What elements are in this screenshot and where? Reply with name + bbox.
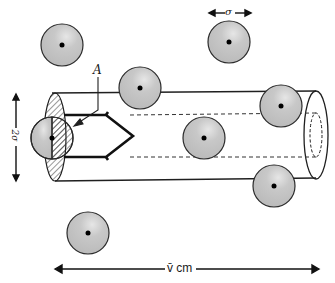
cross-section-leader: [74, 77, 98, 126]
cross-section-label: A: [93, 64, 102, 76]
cylinder-end-ellipse: [304, 91, 328, 179]
molecule-moving: [31, 117, 73, 159]
sigma-label: σ: [225, 7, 232, 17]
molecule-2: [119, 67, 161, 109]
two-sigma-label: 2σ: [10, 130, 19, 142]
molecule-6: [253, 165, 295, 207]
molecule-1: [41, 24, 83, 66]
cylinder-inner-ellipse: [310, 113, 322, 157]
molecule-7: [67, 212, 109, 254]
molecules: [41, 21, 302, 254]
length-label: v̄ cm: [167, 262, 192, 274]
diagram-canvas: [0, 0, 335, 283]
molecule-5: [183, 117, 225, 159]
direction-arrow: [64, 112, 133, 160]
collision-cylinder-diagram: σ A 2σ v̄ cm: [0, 0, 335, 283]
molecule-4: [260, 85, 302, 127]
molecule-3: [208, 21, 250, 63]
